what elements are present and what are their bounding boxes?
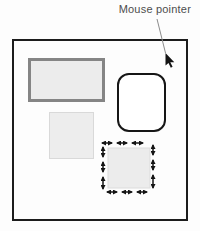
figure: Mouse pointer (0, 0, 200, 231)
mouse-pointer-label: Mouse pointer (119, 3, 191, 15)
thick-border-rectangle (28, 58, 105, 102)
rounded-rectangle (117, 73, 166, 132)
canvas-box (12, 39, 188, 221)
selected-square (108, 148, 150, 188)
move-arrows-square (99, 139, 157, 196)
plain-square (49, 112, 94, 159)
